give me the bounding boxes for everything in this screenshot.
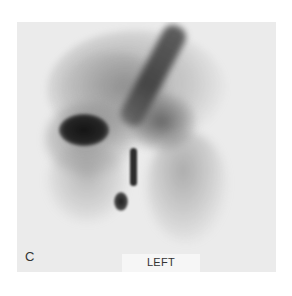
orientation-label: LEFT <box>122 256 200 268</box>
vertical-uptake-streak <box>130 148 137 186</box>
panel-label: C <box>25 249 34 264</box>
orientation-label-box: LEFT <box>122 254 200 272</box>
right-lower-lobe <box>147 132 227 242</box>
figure-panel: C LEFT <box>0 0 292 296</box>
inferior-hot-spot <box>114 192 128 211</box>
left-lower-lobe <box>47 142 127 222</box>
focal-hot-spot <box>59 114 109 146</box>
scintigraphy-image: C LEFT <box>17 22 276 272</box>
